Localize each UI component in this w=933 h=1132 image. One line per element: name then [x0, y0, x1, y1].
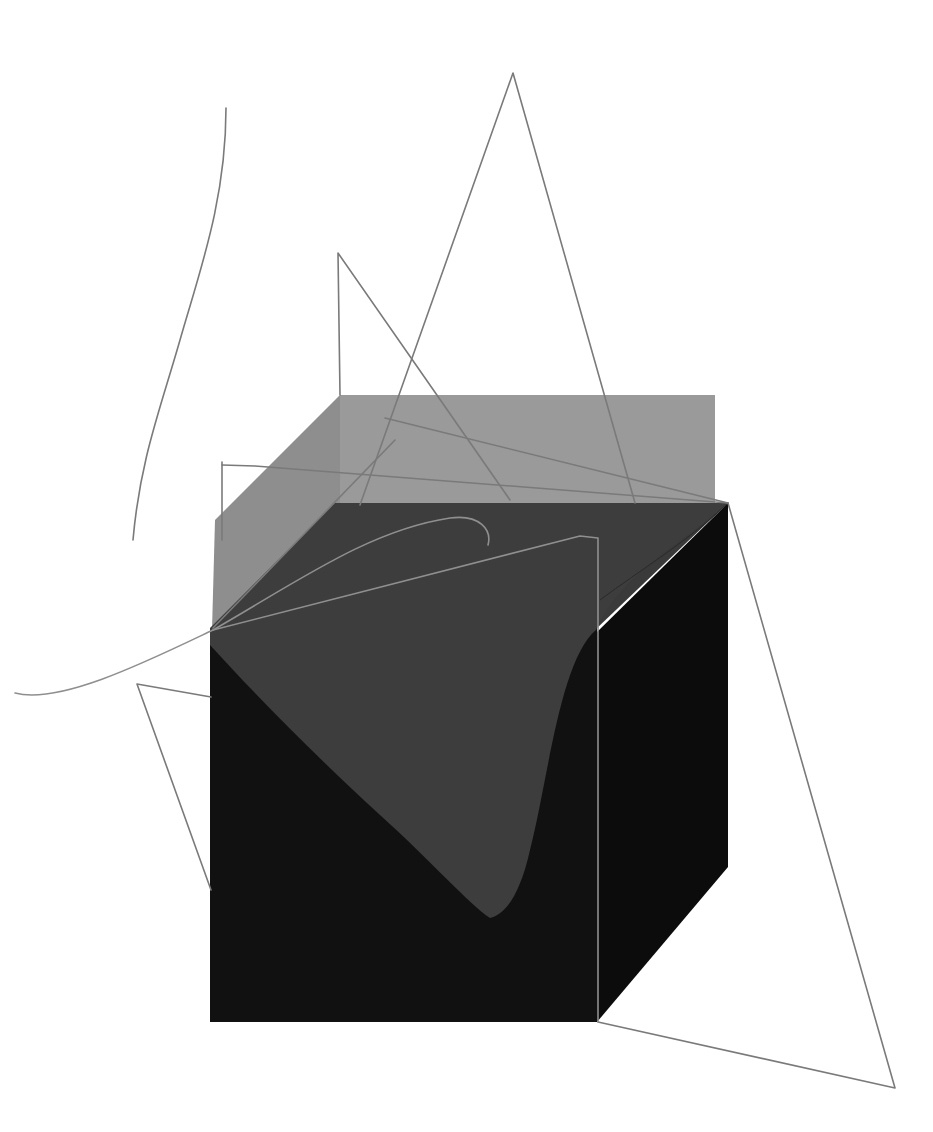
s-curve-line	[133, 108, 226, 540]
back-face	[340, 395, 715, 505]
abstract-artwork	[0, 0, 933, 1132]
tail-curve-line	[15, 630, 213, 695]
left-triangle-line	[137, 684, 211, 890]
